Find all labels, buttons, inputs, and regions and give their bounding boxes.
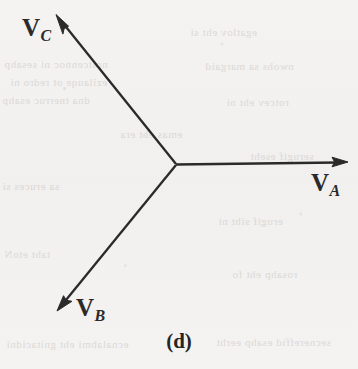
phasor-vectors-svg (0, 0, 358, 369)
phasor-arrow-va (176, 157, 348, 167)
phasor-label-vc-base: V (22, 14, 40, 41)
phasor-label-vb-base: V (76, 294, 94, 321)
phasor-label-va-base: V (311, 169, 329, 196)
phasor-arrow-vc (56, 15, 176, 165)
figure-caption: (d) (0, 329, 358, 354)
phasor-label-vb: VB (76, 295, 105, 324)
phasor-label-vb-subscript: B (95, 307, 106, 324)
phasor-label-vc-subscript: C (41, 27, 52, 44)
phasor-diagram-figure: noitcennoc ni sesahp ezilauqe ot redro n… (0, 0, 358, 369)
phasor-label-vc: VC (22, 15, 51, 44)
phasor-label-va-subscript: A (330, 182, 341, 199)
phasor-label-va: VA (311, 170, 340, 199)
phasor-arrow-vb (57, 165, 176, 311)
